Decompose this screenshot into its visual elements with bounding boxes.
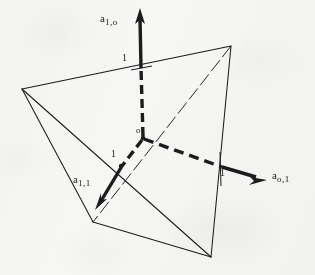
edge-left-to-bottomleft xyxy=(22,89,93,222)
axis-right xyxy=(144,139,267,186)
axis-lower-left-tick-mark xyxy=(119,164,123,168)
axis-right-solid-segment xyxy=(222,167,256,177)
axis-right-arrowhead xyxy=(249,177,267,185)
axis-label-right-subscript: o,1 xyxy=(277,174,290,184)
origin-label: o xyxy=(136,126,141,135)
axis-vertical xyxy=(131,8,152,136)
axis-lower-left-dashed-segment xyxy=(122,140,142,166)
tick-label-right: 1 xyxy=(220,168,225,178)
tetrahedron-edges xyxy=(22,46,231,257)
axis-label-vertical-subscript: 1,o xyxy=(105,17,118,27)
axis-right-dashed-segment xyxy=(144,139,222,167)
edge-topright-to-bottomleft xyxy=(93,46,231,222)
axis-vertical-dashed-segment xyxy=(141,68,143,136)
edge-bottomleft-to-bottomright xyxy=(93,222,211,257)
axis-vertical-solid-segment xyxy=(140,18,141,68)
axis-label-right: ao,1 xyxy=(272,166,290,182)
tetrahedron-axes-figure: a1,o ao,1 a1,1 o 1 1 1 xyxy=(0,0,315,275)
axis-lower-left xyxy=(95,140,142,210)
tick-label-lower-left: 1 xyxy=(111,149,116,159)
edge-topright-to-bottomright xyxy=(211,46,231,257)
axis-label-vertical: a1,o xyxy=(100,9,118,25)
tetrahedron-diagonal-edge xyxy=(93,46,231,222)
axis-label-lower-left-subscript: 1,1 xyxy=(78,178,91,188)
axis-label-lower-left: a1,1 xyxy=(73,170,91,186)
tick-label-vertical: 1 xyxy=(122,53,127,63)
figure-canvas xyxy=(0,0,315,275)
origin-point xyxy=(141,136,146,141)
axis-lower-left-solid-segment xyxy=(101,166,122,201)
